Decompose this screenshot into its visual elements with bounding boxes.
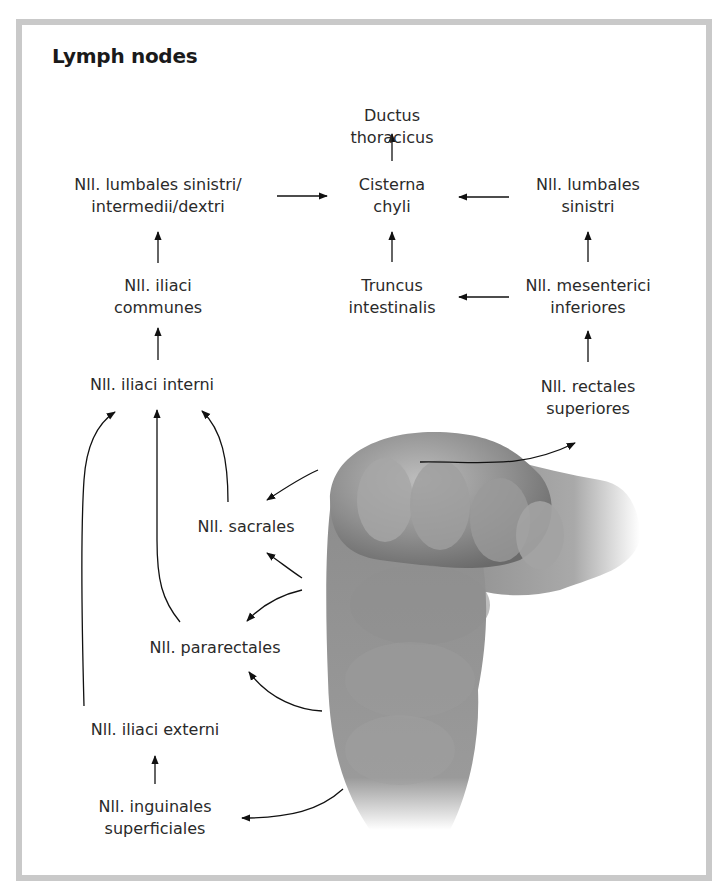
- node-sacrales: Nll. sacrales: [198, 516, 295, 538]
- node-truncus-intestinalis: Truncusintestinalis: [349, 275, 436, 319]
- node-iliaci-communes: Nll. iliacicommunes: [114, 275, 202, 319]
- node-rectales-superiores: Nll. rectalessuperiores: [541, 376, 636, 420]
- node-pararectales: Nll. pararectales: [150, 637, 281, 659]
- node-iliaci-interni: Nll. iliaci interni: [90, 374, 214, 396]
- rectum-illustration: [326, 432, 640, 830]
- node-ductus-thoracicus: Ductusthoracicus: [350, 105, 433, 149]
- node-inguinales-superficiales: Nll. inguinalessuperficiales: [99, 796, 212, 840]
- node-cisterna-chyli: Cisternachyli: [359, 174, 425, 218]
- node-mesenterici-inferiores: Nll. mesentericiinferiores: [525, 275, 650, 319]
- node-lumbales-sinistri-intermedii-dextri: Nll. lumbales sinistri/intermedii/dextri: [74, 174, 241, 218]
- node-iliaci-externi: Nll. iliaci externi: [91, 719, 220, 741]
- node-lumbales-sinistri: Nll. lumbalessinistri: [536, 174, 640, 218]
